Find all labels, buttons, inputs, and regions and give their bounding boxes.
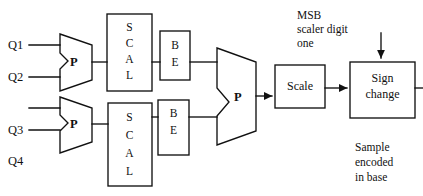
sample-annotation-line1: Sample <box>355 140 390 155</box>
upper-scal-letter-l: L <box>113 68 146 84</box>
main-mux-label: P <box>234 90 242 104</box>
lower-be-letter-e: E <box>158 123 189 139</box>
lower-mux-label: P <box>70 117 78 131</box>
lower-be-letter-b: B <box>158 106 189 122</box>
msb-annotation-line3: one <box>297 36 314 51</box>
input-label-q4: Q4 <box>8 154 23 168</box>
scale-block-label: Scale <box>275 79 325 93</box>
upper-be-letter-e: E <box>160 55 190 71</box>
upper-scal-letter-a: A <box>113 52 146 68</box>
lower-scal-letter-l: L <box>113 164 146 180</box>
input-label-q1: Q1 <box>8 38 23 52</box>
sample-annotation-line2: encoded <box>355 155 393 170</box>
lower-scal-letter-a: A <box>113 146 146 162</box>
sample-annotation-line3: in base <box>355 170 387 185</box>
scaler-block-diagram: Q1 Q2 Q3 Q4 P P P S C A L S C A L B E B … <box>0 0 423 196</box>
upper-mux-label: P <box>70 55 78 69</box>
lower-scal-letter-s: S <box>113 110 146 126</box>
msb-annotation-line1: MSB <box>297 8 321 23</box>
sign-change-label-line2: change <box>350 87 415 101</box>
upper-be-letter-b: B <box>160 38 190 54</box>
upper-scal-letter-c: C <box>113 36 146 52</box>
sign-change-label-line1: Sign <box>350 71 415 85</box>
input-label-q2: Q2 <box>8 70 23 84</box>
lower-scal-letter-c: C <box>113 128 146 144</box>
upper-scal-letter-s: S <box>113 20 146 36</box>
input-label-q3: Q3 <box>8 123 23 137</box>
msb-annotation-line2: scaler digit <box>297 22 348 37</box>
